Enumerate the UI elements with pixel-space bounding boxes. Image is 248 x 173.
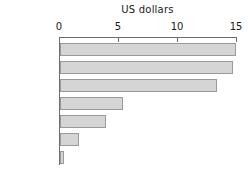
x-axis-line [59, 37, 236, 38]
bar-greece [60, 97, 123, 110]
x-tick-label-10: 10 [171, 21, 184, 32]
bar-sri-lanka [60, 151, 64, 164]
bar-row: US [60, 76, 217, 94]
bar-chart: US dollars 051015 GermanyUKUSGreecePortu… [0, 0, 248, 173]
bar-row: Greece [60, 94, 123, 112]
bar-row: Sri Lanka [60, 148, 64, 166]
bar-portugal [60, 115, 106, 128]
bar-us [60, 79, 217, 92]
plot-area: GermanyUKUSGreecePortugalMexicoSri Lanka [60, 40, 248, 166]
bar-row: Mexico [60, 130, 79, 148]
bar-uk [60, 61, 233, 74]
bar-row: Portugal [60, 112, 106, 130]
x-tick-label-5: 5 [115, 21, 121, 32]
bar-germany [60, 43, 236, 56]
chart-title: US dollars [59, 4, 236, 15]
x-tick-label-0: 0 [56, 21, 62, 32]
bar-row: Germany [60, 40, 236, 58]
bar-mexico [60, 133, 79, 146]
x-tick-label-15: 15 [230, 21, 243, 32]
bar-row: UK [60, 58, 233, 76]
